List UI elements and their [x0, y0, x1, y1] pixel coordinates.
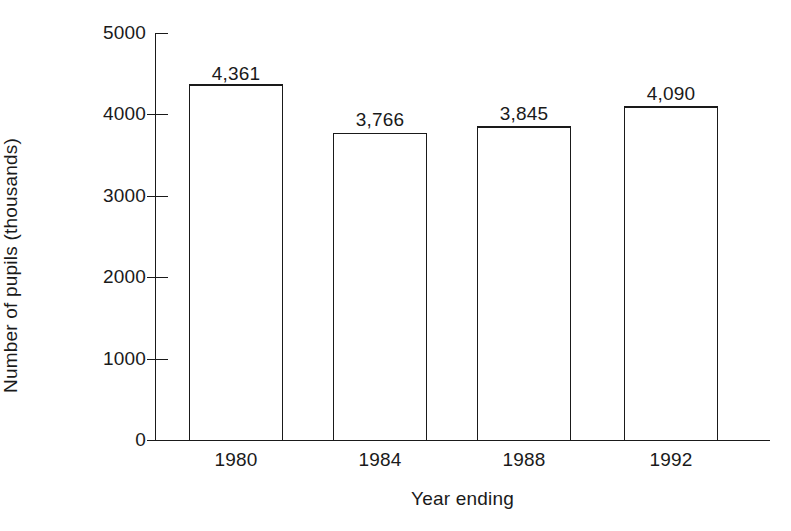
x-tick-label-1980: 1980: [214, 449, 257, 471]
bar-value-label: 4,361: [212, 63, 261, 85]
bar-value-label: 3,766: [356, 109, 405, 131]
x-axis-title: Year ending: [155, 488, 770, 510]
bar: [190, 85, 283, 440]
bar: [625, 107, 718, 440]
bar: [478, 127, 571, 440]
x-tick-label-1988: 1988: [502, 449, 545, 471]
x-tick-label-1992: 1992: [649, 449, 692, 471]
x-tick-label-1984: 1984: [358, 449, 401, 471]
bar-value-label: 3,845: [500, 103, 549, 125]
bars-group: [190, 85, 718, 440]
bar-chart: Number of pupils (thousands) 5000 4000 3…: [0, 0, 791, 531]
bar-value-label: 4,090: [647, 83, 696, 105]
bar: [334, 134, 427, 441]
